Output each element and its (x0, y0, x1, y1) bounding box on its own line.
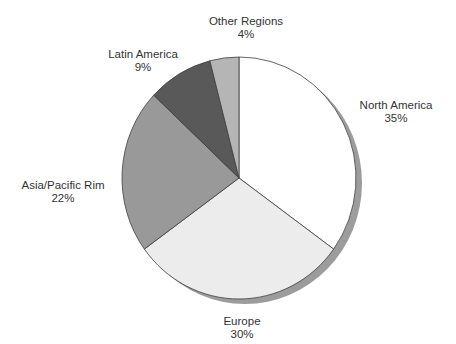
slice-label-text: Latin America (108, 48, 178, 60)
slice-label-asia-pacific-rim: Asia/Pacific Rim 22% (21, 179, 104, 205)
pie-chart (0, 0, 456, 344)
slice-percent-text: 4% (209, 28, 283, 41)
slice-label-text: Asia/Pacific Rim (21, 179, 104, 191)
slice-label-north-america: North America 35% (360, 99, 433, 125)
slice-percent-text: 30% (223, 328, 260, 341)
slice-percent-text: 9% (108, 61, 178, 74)
slice-label-text: Europe (223, 315, 260, 327)
slice-label-text: North America (360, 99, 433, 111)
slice-label-other-regions: Other Regions 4% (209, 15, 283, 41)
pie-chart-figure: Other Regions 4% Latin America 9% North … (0, 0, 456, 344)
slice-percent-text: 22% (21, 192, 104, 205)
slice-label-latin-america: Latin America 9% (108, 48, 178, 74)
slice-label-europe: Europe 30% (223, 315, 260, 341)
slice-percent-text: 35% (360, 112, 433, 125)
slice-label-text: Other Regions (209, 15, 283, 27)
